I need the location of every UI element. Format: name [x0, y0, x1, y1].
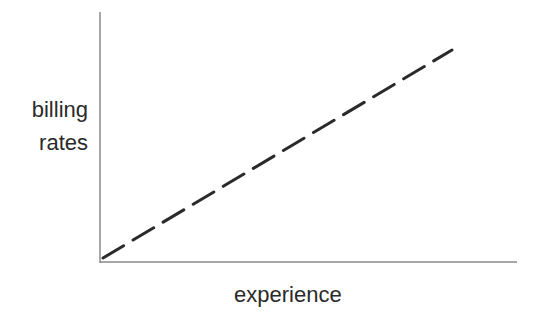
dashed-trend-line: [103, 50, 452, 258]
chart-canvas: [0, 0, 534, 327]
x-axis-label: experience: [234, 281, 342, 309]
y-axis-label: billing rates: [32, 93, 88, 159]
y-axis-label-line-1: billing: [32, 93, 88, 126]
chart: billing rates experience: [0, 0, 534, 327]
y-axis-label-line-2: rates: [32, 126, 88, 159]
